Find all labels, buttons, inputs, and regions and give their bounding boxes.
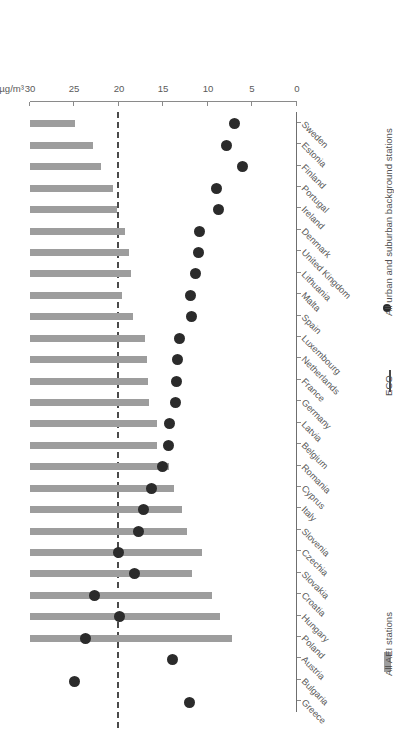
legend-label: All urban and suburban background statio… (383, 128, 394, 316)
category-tick (297, 486, 301, 487)
chart-row: Finland (30, 157, 297, 176)
data-point (237, 161, 248, 172)
chart-row: Portugal (30, 179, 297, 198)
bar (30, 399, 149, 406)
bar (30, 592, 212, 599)
data-point (89, 590, 100, 601)
value-tick (207, 102, 208, 106)
bar (30, 120, 75, 127)
chart-row: Greece (30, 693, 297, 712)
axis-unit-label: µg/m³ (0, 83, 24, 94)
bar (30, 378, 148, 385)
data-point (194, 226, 205, 237)
bar (30, 463, 169, 470)
category-label: Spain (299, 312, 323, 336)
category-tick (297, 165, 301, 166)
category-tick (297, 122, 301, 123)
chart-legend: All AEI stationsECOAll urban and suburba… (369, 132, 393, 692)
chart-row: Spain (30, 307, 297, 326)
bar (30, 356, 147, 363)
data-point (185, 290, 196, 301)
data-point (138, 504, 149, 515)
chart-row: France (30, 372, 297, 391)
bar (30, 313, 133, 320)
category-tick (297, 186, 301, 187)
data-point (213, 204, 224, 215)
bar (30, 635, 232, 642)
value-tick-label: 0 (287, 83, 307, 94)
data-point (146, 483, 157, 494)
value-tick-label: 10 (198, 83, 218, 94)
category-tick (297, 593, 301, 594)
category-tick (297, 272, 301, 273)
data-point (164, 418, 175, 429)
data-point (221, 140, 232, 151)
category-tick (297, 529, 301, 530)
chart-row: Slovakia (30, 564, 297, 583)
data-point (184, 697, 195, 708)
bar (30, 528, 187, 535)
bar (30, 142, 93, 149)
chart-row: Hungary (30, 607, 297, 626)
data-point (171, 376, 182, 387)
category-tick (297, 657, 301, 658)
value-tick-label: 5 (243, 83, 263, 94)
category-tick (297, 507, 301, 508)
chart-screen: SwedenEstoniaFinlandPortugalIrelandDenma… (0, 0, 407, 740)
data-point (69, 676, 80, 687)
data-point (80, 633, 91, 644)
bar (30, 249, 129, 256)
value-tick (29, 102, 30, 106)
category-tick (297, 336, 301, 337)
category-tick (297, 293, 301, 294)
chart-row: Malta (30, 286, 297, 305)
bar (30, 228, 125, 235)
category-tick (297, 636, 301, 637)
category-tick (297, 443, 301, 444)
category-tick (297, 400, 301, 401)
chart-row: Italy (30, 500, 297, 519)
chart-row: Cyprus (30, 479, 297, 498)
chart-row: Netherlands (30, 350, 297, 369)
category-tick (297, 550, 301, 551)
data-point (129, 568, 140, 579)
category-tick (297, 465, 301, 466)
bar (30, 442, 157, 449)
category-tick (297, 572, 301, 573)
bar (30, 506, 182, 513)
legend-label: ECO (383, 375, 394, 396)
plot-area: SwedenEstoniaFinlandPortugalIrelandDenma… (30, 112, 297, 712)
value-tick (163, 102, 164, 106)
bar (30, 420, 157, 427)
bar (30, 570, 192, 577)
data-point (114, 547, 125, 558)
bar (30, 163, 101, 170)
data-point (229, 118, 240, 129)
chart-row: Romania (30, 457, 297, 476)
category-tick (297, 357, 301, 358)
value-tick-label: 15 (154, 83, 174, 94)
chart-row: Austria (30, 650, 297, 669)
data-point (157, 461, 168, 472)
value-tick (118, 102, 119, 106)
value-tick (252, 102, 253, 106)
data-point (174, 333, 185, 344)
data-point (114, 611, 125, 622)
value-tick-label: 25 (65, 83, 85, 94)
chart-row: Denmark (30, 222, 297, 241)
chart-row: Belgium (30, 436, 297, 455)
data-point (190, 268, 201, 279)
value-tick-label: 20 (109, 83, 129, 94)
data-point (133, 526, 144, 537)
bar (30, 292, 122, 299)
chart-row: Slovenia (30, 522, 297, 541)
category-label: Italy (299, 505, 318, 524)
chart-row: Germany (30, 393, 297, 412)
category-tick (297, 615, 301, 616)
chart-row: Bulgaria (30, 672, 297, 691)
category-tick (297, 229, 301, 230)
bar (30, 270, 131, 277)
figure-rotated-container: SwedenEstoniaFinlandPortugalIrelandDenma… (0, 0, 407, 740)
chart-row: Lithuania (30, 264, 297, 283)
chart-row: Estonia (30, 136, 297, 155)
